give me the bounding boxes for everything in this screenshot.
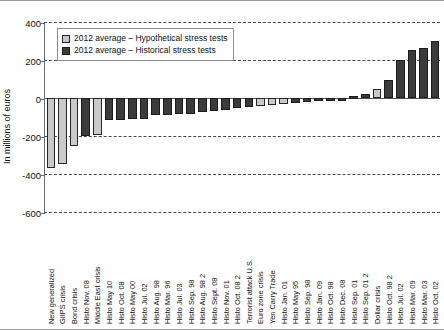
bar (58, 98, 67, 164)
x-axis-label: Histo Mar. 03 (420, 214, 429, 324)
x-axis-label: Histo Oct. 98 (326, 214, 335, 324)
bar (175, 98, 184, 114)
x-axis-label: Bond crisis (70, 214, 79, 324)
x-axis-label: Dollar crisis (373, 214, 382, 324)
bar (384, 80, 393, 98)
x-axis-label: Histo Jul. 02 (396, 214, 405, 324)
bar (314, 98, 323, 101)
x-axis-labels: New generalizedGIIPS crisisBond crisisHi… (45, 214, 441, 326)
bar (70, 98, 79, 146)
bar (93, 98, 102, 135)
x-axis-label: Histo Oct. 98 2 (385, 214, 394, 324)
x-axis-label: Histo Jul. 03 (175, 214, 184, 324)
bar (361, 94, 370, 98)
bar (326, 98, 335, 101)
x-axis-label: Yen Carry Trade (268, 214, 277, 324)
stress-test-bar-chart: In millions of euros 4002000-200-400-600… (0, 0, 444, 330)
x-axis-label: Histo Nov. 08 (82, 214, 91, 324)
bar (140, 98, 149, 119)
x-axis-label: Euro zone crisis (256, 214, 265, 324)
bar (373, 89, 382, 98)
x-axis-label: Histo Oct. 02 (431, 214, 440, 324)
y-tick-label--400: -400 (22, 170, 41, 181)
bar (396, 60, 405, 98)
bar (291, 98, 300, 103)
x-axis-label: Histo Aug. 98 2 (198, 214, 207, 324)
bar (221, 98, 230, 110)
x-axis-label: Histo Sept. 08 (210, 214, 219, 324)
bar (431, 41, 440, 98)
x-axis-label: Histo Oct. 08 (117, 214, 126, 324)
bar (268, 98, 277, 105)
x-axis-label: Histo Sep. 98 (187, 214, 196, 324)
bar (256, 98, 265, 106)
x-axis-label: Histo May 00 (128, 214, 137, 324)
bar (233, 98, 242, 108)
bar (105, 98, 114, 120)
y-tick-label--200: -200 (22, 132, 41, 143)
bar (349, 96, 358, 99)
y-axis-title: In millions of euros (2, 61, 16, 191)
x-axis-label: Histo Aug. 98 (152, 214, 161, 324)
legend-label-historical: 2012 average – Historical stress tests (74, 45, 216, 56)
bar (303, 98, 312, 102)
x-axis-label: Histo Oct. 08 2 (233, 214, 242, 324)
x-axis-label: Histo Sep. 01 (350, 214, 359, 324)
bar (128, 98, 137, 119)
chart-legend: 2012 average – Hypothetical stress tests… (57, 28, 234, 61)
bar (210, 98, 219, 111)
bar (279, 98, 288, 104)
x-axis-label: Histo Jul. 02 (140, 214, 149, 324)
bar (81, 98, 90, 136)
x-axis-label: GIIPS crisis (58, 214, 67, 324)
y-tick-label-200: 200 (25, 56, 41, 67)
x-axis-label: Histo Sep. 98 (303, 214, 312, 324)
x-axis-label: Histo Dec. 08 (338, 214, 347, 324)
bar (47, 98, 56, 168)
bar (163, 98, 172, 115)
legend-item-historical: 2012 average – Historical stress tests (62, 45, 228, 56)
bar (419, 48, 428, 98)
x-axis-label: Histo Sep. 01 2 (361, 214, 370, 324)
legend-swatch-hypothetical (62, 35, 70, 43)
legend-swatch-historical (62, 47, 70, 55)
y-tick-label-400: 400 (25, 18, 41, 29)
x-axis-label: Middle East crisis (93, 214, 102, 324)
bar (116, 98, 125, 120)
bar (151, 98, 160, 115)
bar (186, 98, 195, 114)
legend-label-hypothetical: 2012 average – Hypothetical stress tests (74, 33, 228, 44)
gridline--600: -600 (44, 212, 440, 213)
x-axis-label: Terrorist attack U.S. (245, 214, 254, 324)
legend-item-hypothetical: 2012 average – Hypothetical stress tests (62, 33, 228, 44)
bar (198, 98, 207, 112)
bar (408, 50, 417, 98)
x-axis-label: New generalized (47, 214, 56, 324)
x-axis-label: Histo Jan. 09 (315, 214, 324, 324)
x-axis-label: Histo Jan. 01 (280, 214, 289, 324)
y-tick-label--600: -600 (22, 208, 41, 219)
x-axis-label: Histo May 10 (105, 214, 114, 324)
x-axis-label: Histo Nov. 01 (222, 214, 231, 324)
x-axis-label: Histo Mar. 09 (408, 214, 417, 324)
bar (245, 98, 254, 107)
bar (338, 98, 347, 101)
x-axis-label: Histo May 95 (291, 214, 300, 324)
x-axis-label: Histo Mar. 96 (163, 214, 172, 324)
